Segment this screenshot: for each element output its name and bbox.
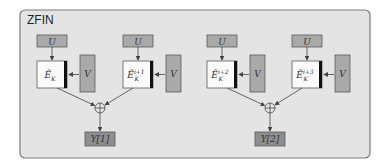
frame-title: ZFIN: [27, 13, 54, 27]
output-label: Y[2]: [261, 134, 280, 144]
u-input-label: U: [303, 37, 311, 47]
estimator-state-bar: [319, 61, 322, 88]
zfin-diagram: ZFIN UẼKVUẼi+1KVUẼi+2KVUẼi+3KV Y[1]Y[2]: [0, 0, 389, 166]
output-label: Y[1]: [91, 134, 110, 144]
estimator-state-bar: [64, 61, 67, 88]
u-input-label: U: [48, 37, 56, 47]
estimator-state-bar: [150, 61, 153, 88]
estimator-state-bar: [234, 61, 237, 88]
u-input-label: U: [218, 37, 226, 47]
u-input-label: U: [134, 37, 142, 47]
